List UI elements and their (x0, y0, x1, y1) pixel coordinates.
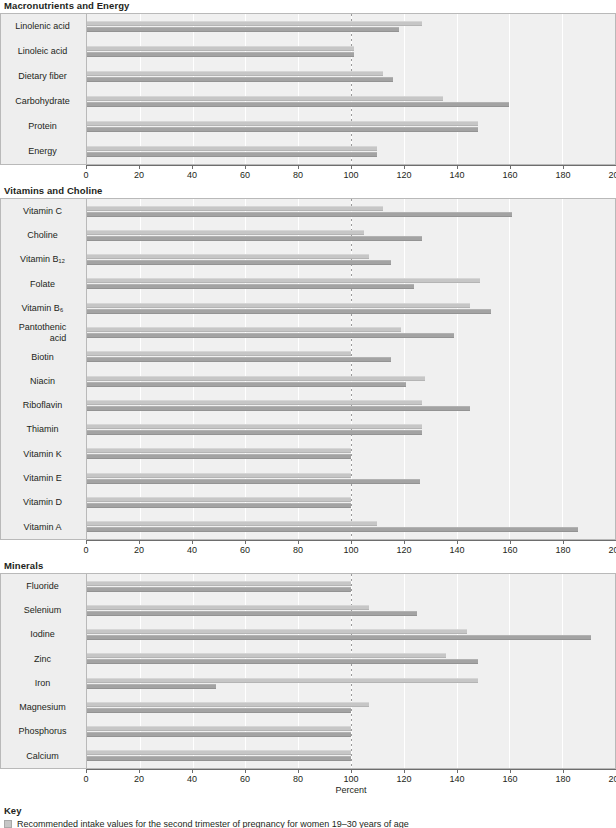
bar-usual (87, 333, 454, 338)
axis-tick-label: 20 (134, 170, 144, 180)
axis-tick-label: 0 (83, 545, 88, 555)
axis-tick (404, 769, 405, 773)
bar-usual (87, 236, 422, 241)
axis-tick-label: 180 (555, 170, 570, 180)
bar-row (87, 89, 615, 114)
bar-usual (87, 756, 351, 761)
y-axis-label: Pantothenic acid (5, 320, 80, 344)
bar-row (87, 418, 615, 442)
axis-tick-label: 120 (396, 545, 411, 555)
axis-tick-label: 160 (502, 170, 517, 180)
axis-tick (563, 165, 564, 169)
bar-usual (87, 260, 391, 265)
axis-tick (192, 540, 193, 544)
axis-tick (457, 769, 458, 773)
y-axis-label: Vitamin A (5, 515, 80, 539)
bar-row (87, 671, 615, 695)
bar-row (87, 369, 615, 393)
bar-usual (87, 102, 509, 107)
bar-rows-vitamins (87, 199, 615, 539)
bar-usual (87, 152, 377, 157)
y-axis-label: Linoleic acid (5, 39, 80, 64)
y-axis-label: Vitamin K (5, 442, 80, 466)
bar-usual (87, 357, 391, 362)
panel-title-vitamins: Vitamins and Choline (0, 185, 616, 198)
axis-tick (139, 540, 140, 544)
axis-tick (351, 769, 352, 773)
axis-tick-label: 100 (343, 774, 358, 784)
axis-tick (139, 165, 140, 169)
axis-tick-label: 200 (608, 545, 616, 555)
y-axis-label: Linolenic acid (5, 14, 80, 39)
y-axis-labels-vitamins: Vitamin CCholineVitamin B₁₂FolateVitamin… (1, 199, 87, 539)
axis-tick (245, 165, 246, 169)
y-axis-label: Zinc (5, 647, 80, 671)
y-axis-label: Phosphorus (5, 720, 80, 744)
bar-row (87, 223, 615, 247)
axis-tick (457, 165, 458, 169)
y-axis-label: Fluoride (5, 574, 80, 598)
axis-tick-label: 200 (608, 774, 616, 784)
axis-tick-label: 20 (134, 545, 144, 555)
axis-tick-label: 100 (343, 170, 358, 180)
axis-tick-label: 160 (502, 774, 517, 784)
axis-tick-label: 40 (187, 545, 197, 555)
bar-usual (87, 309, 491, 314)
axis-tick (404, 540, 405, 544)
bar-usual (87, 52, 354, 57)
axis-tick-label: 140 (449, 545, 464, 555)
axis-tick (86, 769, 87, 773)
y-axis-label: Selenium (5, 598, 80, 622)
bar-row (87, 199, 615, 223)
bar-row (87, 647, 615, 671)
y-axis-label: Vitamin E (5, 466, 80, 490)
bar-row (87, 695, 615, 719)
y-axis-label: Calcium (5, 744, 80, 768)
y-axis-label: Vitamin B₆ (5, 296, 80, 320)
bar-row (87, 64, 615, 89)
bar-row (87, 574, 615, 598)
bar-row (87, 320, 615, 344)
x-axis-title: Percent (335, 785, 366, 795)
axis-tick-label: 140 (449, 774, 464, 784)
axis-tick-label: 120 (396, 170, 411, 180)
panel-title-macronutrients: Macronutrients and Energy (0, 0, 616, 13)
axis-tick (192, 769, 193, 773)
y-axis-label: Protein (5, 114, 80, 139)
y-axis-label: Vitamin D (5, 490, 80, 514)
plot-area-minerals (87, 574, 615, 768)
bar-row (87, 490, 615, 514)
bar-row (87, 744, 615, 768)
axis-tick-label: 60 (240, 170, 250, 180)
axis-tick (298, 540, 299, 544)
axis-tick (510, 540, 511, 544)
axis-tick (86, 165, 87, 169)
axis-tick-label: 20 (134, 774, 144, 784)
axis-tick (86, 540, 87, 544)
y-axis-label: Vitamin B₁₂ (5, 248, 80, 272)
key-item-recommended: Recommended intake values for the second… (0, 818, 616, 828)
bar-row (87, 345, 615, 369)
y-axis-label: Magnesium (5, 695, 80, 719)
bar-usual (87, 284, 414, 289)
y-axis-label: Thiamin (5, 418, 80, 442)
key-title: Key (0, 801, 616, 818)
axis-tick-label: 80 (293, 774, 303, 784)
axis-tick-label: 180 (555, 545, 570, 555)
axis-tick (563, 769, 564, 773)
bar-row (87, 393, 615, 417)
axis-tick (563, 540, 564, 544)
x-axis-minerals: 020406080100120140160180200Percent (86, 769, 616, 801)
bar-usual (87, 684, 216, 689)
bar-row (87, 720, 615, 744)
axis-tick-label: 100 (343, 545, 358, 555)
axis-tick-label: 80 (293, 545, 303, 555)
bar-usual (87, 587, 351, 592)
axis-tick-label: 200 (608, 170, 616, 180)
plot-area-macronutrients (87, 14, 615, 164)
axis-tick-label: 40 (187, 774, 197, 784)
bar-usual (87, 708, 351, 713)
axis-tick (351, 540, 352, 544)
axis-tick-label: 160 (502, 545, 517, 555)
bar-usual (87, 635, 591, 640)
